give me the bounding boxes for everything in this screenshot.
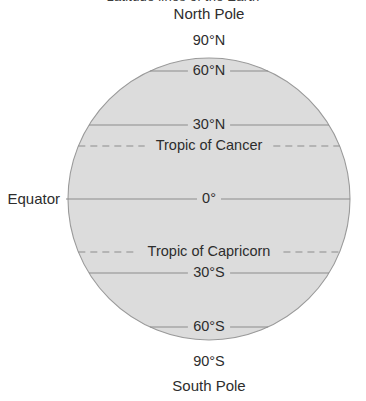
north-pole-label: North Pole bbox=[174, 5, 245, 22]
figure-title-cropped: Latitude lines of the Earth bbox=[0, 0, 366, 4]
latitude-label-cancer: Tropic of Cancer bbox=[156, 137, 263, 153]
latitude-label-capricorn: Tropic of Capricorn bbox=[148, 243, 271, 259]
latitude-label-0: 0° bbox=[202, 190, 216, 206]
latitude-label-60S: 60°S bbox=[193, 318, 225, 334]
south-pole-label: South Pole bbox=[172, 377, 245, 394]
latitude-label-30N: 30°N bbox=[193, 116, 225, 132]
equator-side-label: Equator bbox=[7, 190, 60, 207]
latitude-diagram: Latitude lines of the Earth 90°N60°N30°N… bbox=[0, 0, 366, 401]
latitude-label-30S: 30°S bbox=[193, 264, 225, 280]
globe-svg: 90°N60°N30°NTropic of Cancer0°Tropic of … bbox=[0, 0, 366, 401]
latitude-label-90S: 90°S bbox=[193, 353, 225, 369]
latitude-label-90N: 90°N bbox=[193, 32, 225, 48]
latitude-label-60N: 60°N bbox=[193, 62, 225, 78]
